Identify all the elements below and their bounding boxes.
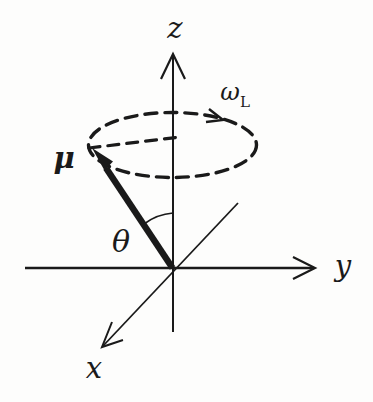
omega-subscript-label: L <box>240 93 250 111</box>
x-axis-label: x <box>86 351 102 385</box>
theta-label: θ <box>112 224 130 259</box>
precession-radius-dashed-line <box>89 137 180 148</box>
larmor-precession-diagram: z y x ω L μ θ <box>0 0 373 402</box>
y-axis-label: y <box>333 249 352 283</box>
omega-label: ω <box>220 78 240 106</box>
mu-vector-label: μ <box>53 141 74 175</box>
theta-arc <box>144 213 173 224</box>
z-axis-label: z <box>166 11 183 45</box>
